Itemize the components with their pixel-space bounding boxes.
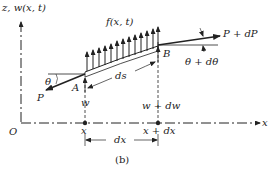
displacement-left-label: w [81,98,90,108]
element-length-label: dx [114,135,126,145]
tension-left-label: P [37,93,44,103]
point-b-label: B [163,49,170,59]
origin-label: O [9,127,17,137]
horizontal-axis-label: x [262,118,268,128]
position-left-label: x [81,126,87,136]
displacement-right-label: w + dw [142,101,180,111]
vertical-axis-label: z, w(x, t) [2,3,46,13]
distributed-load-arrows [87,27,158,71]
point-a-label: A [72,83,79,93]
arc-length-label: ds [115,71,127,81]
figure-caption: (b) [115,155,129,165]
load-label: f(x, t) [106,17,134,27]
angle-right-label: θ + dθ [185,57,218,67]
string-element-diagram [0,0,269,173]
tension-right-label: P + dP [223,29,258,39]
position-right-label: x + dx [143,126,175,136]
angle-left-label: θ [45,77,51,87]
